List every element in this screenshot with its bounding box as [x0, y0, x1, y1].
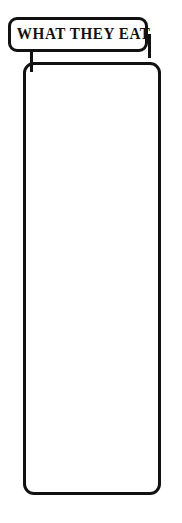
title-banner: WHAT THEY EAT — [8, 17, 148, 52]
page-title-text: WHAT THEY EAT — [17, 26, 151, 42]
what-they-eat-poster: WHAT THEY EAT — [0, 0, 182, 523]
prey-list-frame — [23, 62, 161, 495]
banner-stem-left — [30, 50, 33, 72]
page-title: WHAT THEY EAT — [11, 26, 145, 42]
